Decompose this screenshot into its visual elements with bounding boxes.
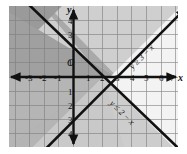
x-tick-4: 4 — [130, 74, 135, 83]
x-tick--2: -2 — [39, 74, 47, 83]
x-axis-label: x — [178, 73, 183, 83]
x-tick-6: 6 — [159, 74, 164, 83]
x-tick-7: 7 — [170, 74, 175, 83]
y-tick--1: 1 — [68, 88, 73, 97]
y-tick-4: 4 — [68, 17, 73, 26]
axes-and-lines — [9, 6, 178, 147]
y-tick--4: 4 — [68, 130, 73, 139]
x-tick-1: 1 — [86, 74, 91, 83]
x-tick-2: 2 — [100, 74, 105, 83]
y-tick--2: 2 — [68, 102, 73, 111]
x-tick--1: -1 — [54, 74, 62, 83]
x-tick-3: 3 — [115, 74, 120, 83]
y-axis-label: y — [67, 5, 71, 15]
x-tick-5: 5 — [144, 74, 149, 83]
coordinate-plane: y ≥ 3 − x y ≤ 2 − x — [9, 6, 178, 147]
y-tick-3: 3 — [68, 31, 73, 40]
figure-screenshot: y ≥ 3 − x y ≤ 2 − x -3 -2 -1 1 2 3 4 5 6… — [0, 0, 187, 154]
y-tick--3: 3 — [68, 116, 73, 125]
x-tick--3: -3 — [25, 74, 33, 83]
origin-label: O — [67, 58, 74, 68]
